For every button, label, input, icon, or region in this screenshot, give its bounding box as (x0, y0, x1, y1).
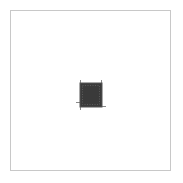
chip-icon[interactable] (76, 80, 106, 110)
chip-icon-graphic (76, 80, 106, 110)
